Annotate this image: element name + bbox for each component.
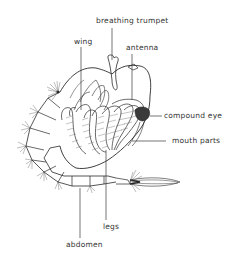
label-wing: wing	[74, 38, 93, 46]
label-antenna: antenna	[126, 44, 158, 52]
compound-eye	[135, 107, 150, 121]
legs-bundle	[61, 104, 140, 154]
label-abdomen: abdomen	[66, 241, 103, 249]
label-breathing-trumpet: breathing trumpet	[96, 17, 168, 25]
label-mouth-parts: mouth parts	[172, 137, 220, 145]
label-legs: legs	[103, 223, 119, 231]
label-compound-eye: compound eye	[164, 112, 222, 120]
